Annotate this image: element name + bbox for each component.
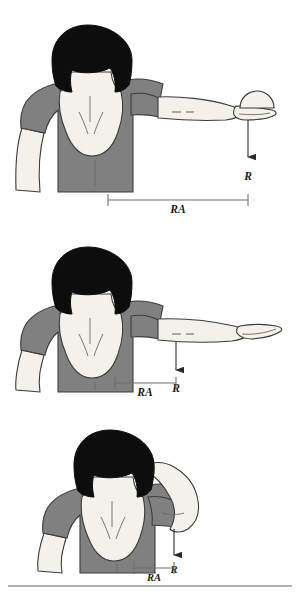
moment-arm-label: RA xyxy=(136,386,153,398)
left-arm xyxy=(16,350,44,392)
force-label: R xyxy=(243,170,252,182)
moment-arm-label: RA xyxy=(169,203,186,215)
left-arm xyxy=(16,128,44,192)
left-arm xyxy=(38,533,66,573)
biomechanics-figure: R RA xyxy=(0,0,300,599)
moment-arm-label: RA xyxy=(146,572,161,583)
figure-canvas: R RA xyxy=(0,0,300,599)
right-sleeve xyxy=(131,315,160,339)
right-sleeve xyxy=(131,93,160,117)
